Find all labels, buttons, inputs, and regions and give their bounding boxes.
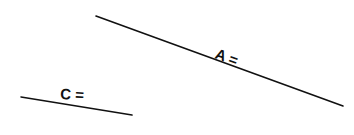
segment-c-label: C =	[60, 85, 85, 103]
segment-a-label: A =	[213, 45, 241, 69]
diagram-svg: A = C =	[0, 0, 354, 135]
diagram-canvas: A = C =	[0, 0, 354, 135]
